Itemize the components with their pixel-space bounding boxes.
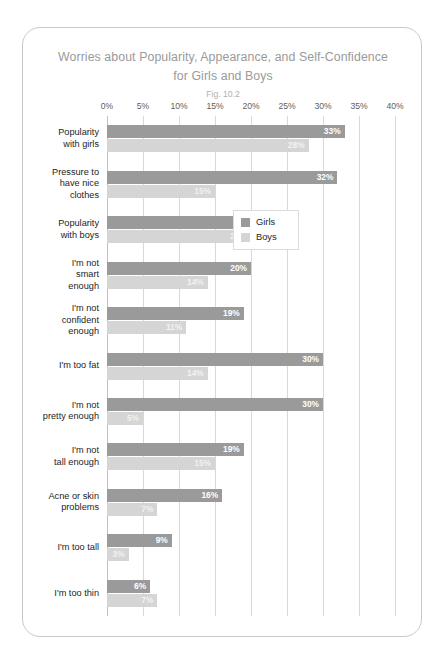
bar-value-label: 14% [187, 367, 204, 380]
bar-girls: 30% [107, 353, 323, 366]
category-label: Popularity with girls [23, 127, 99, 150]
gridline-35pct [359, 116, 360, 616]
category-label: I'm too thin [23, 588, 99, 600]
gridline-20pct [251, 116, 252, 616]
bar-value-label: 15% [194, 457, 211, 470]
bar-value-label: 32% [317, 171, 334, 184]
category-label: I'm too fat [23, 360, 99, 372]
plot-area: 33%28%32%15%25%20%20%14%19%11%30%14%30%5… [107, 116, 395, 616]
bar-boys: 20% [107, 230, 251, 243]
bar-girls: 19% [107, 307, 244, 320]
chart-title-line-2: for Girls and Boys [39, 67, 407, 86]
gridline-40pct [395, 116, 396, 616]
bar-value-label: 9% [156, 534, 168, 547]
bar-value-label: 6% [134, 580, 146, 593]
bar-value-label: 5% [127, 412, 139, 425]
bar-girls: 6% [107, 580, 150, 593]
chart-card: Worries about Popularity, Appearance, an… [22, 27, 422, 637]
bar-value-label: 28% [288, 139, 305, 152]
x-axis-tick-label: 5% [137, 101, 149, 111]
category-label: I'm not pretty enough [23, 400, 99, 423]
bar-boys: 7% [107, 503, 157, 516]
x-axis-tick-label: 10% [170, 101, 187, 111]
legend-swatch-icon [241, 233, 250, 242]
bar-boys: 7% [107, 594, 157, 607]
legend-swatch-icon [241, 218, 250, 227]
x-axis-tick-label: 25% [278, 101, 295, 111]
x-axis-tick-label: 35% [350, 101, 367, 111]
bar-boys: 5% [107, 412, 143, 425]
bar-value-label: 20% [230, 262, 247, 275]
gridline-30pct [323, 116, 324, 616]
bar-boys: 14% [107, 367, 208, 380]
bar-value-label: 3% [112, 548, 124, 561]
bar-value-label: 19% [223, 443, 240, 456]
chart-legend: GirlsBoys [233, 210, 299, 250]
bar-boys: 15% [107, 457, 215, 470]
legend-item-boys: Boys [241, 232, 291, 242]
chart-title-line-1: Worries about Popularity, Appearance, an… [39, 48, 407, 67]
y-axis-category-labels: Popularity with girlsPressure to have ni… [23, 116, 99, 616]
gridline-25pct [287, 116, 288, 616]
bar-boys: 15% [107, 185, 215, 198]
bar-value-label: 11% [166, 321, 182, 334]
x-axis-tick-label: 20% [242, 101, 259, 111]
bar-girls: 16% [107, 489, 222, 502]
category-label: I'm not smart enough [23, 258, 99, 293]
bar-value-label: 7% [141, 594, 153, 607]
bar-value-label: 33% [324, 125, 341, 138]
x-axis-tick-label: 0% [101, 101, 113, 111]
gridline-15pct [215, 116, 216, 616]
category-label: I'm too tall [23, 542, 99, 554]
x-axis-tick-labels: 0%5%10%15%20%25%30%35%40% [107, 101, 395, 115]
category-label: I'm not confident enough [23, 303, 99, 338]
chart-figure-number: Fig. 10.2 [39, 89, 407, 99]
category-label: Popularity with boys [23, 218, 99, 241]
bar-boys: 11% [107, 321, 186, 334]
category-label: Pressure to have nice clothes [23, 167, 99, 202]
x-axis-tick-label: 15% [206, 101, 223, 111]
category-label: Acne or skin problems [23, 491, 99, 514]
bar-value-label: 15% [194, 185, 211, 198]
bar-boys: 3% [107, 548, 129, 561]
x-axis-tick-label: 30% [314, 101, 331, 111]
bar-value-label: 30% [302, 353, 319, 366]
bar-girls: 33% [107, 125, 345, 138]
bar-boys: 28% [107, 139, 309, 152]
bar-girls: 30% [107, 398, 323, 411]
bar-girls: 32% [107, 171, 337, 184]
legend-item-girls: Girls [241, 217, 291, 227]
chart-title: Worries about Popularity, Appearance, an… [39, 48, 407, 86]
bar-girls: 9% [107, 534, 172, 547]
category-label: I'm not tall enough [23, 445, 99, 468]
bar-value-label: 19% [223, 307, 240, 320]
bar-girls: 20% [107, 262, 251, 275]
bar-value-label: 14% [187, 276, 204, 289]
bar-boys: 14% [107, 276, 208, 289]
x-axis-tick-label: 40% [386, 101, 403, 111]
bar-value-label: 30% [302, 398, 319, 411]
legend-label: Girls [256, 217, 275, 227]
bar-value-label: 7% [141, 503, 153, 516]
bar-value-label: 16% [201, 489, 218, 502]
bar-girls: 19% [107, 443, 244, 456]
legend-label: Boys [256, 232, 277, 242]
